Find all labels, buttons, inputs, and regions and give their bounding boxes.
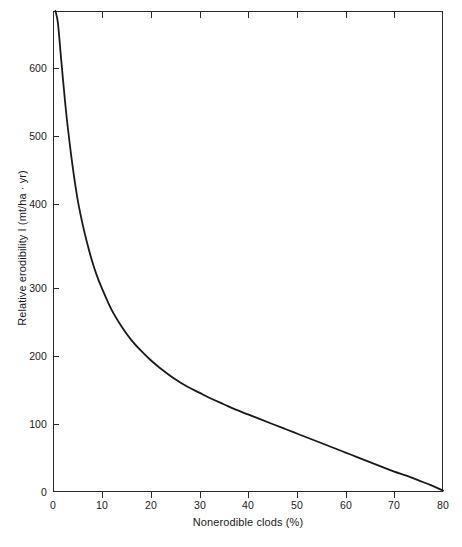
figure-container: 600 500 400 300 200 100 0 0 10 20 30 40 … bbox=[0, 0, 462, 547]
y-tick-label-200: 200 bbox=[29, 351, 47, 362]
x-tick-label-0: 0 bbox=[33, 500, 73, 511]
x-tick-mark-50 bbox=[297, 492, 298, 498]
x-top-tick-mark-10 bbox=[102, 12, 103, 18]
x-tick-mark-40 bbox=[248, 492, 249, 498]
x-tick-label-70: 70 bbox=[374, 500, 414, 511]
x-tick-label-80: 80 bbox=[423, 500, 462, 511]
x-tick-label-60: 60 bbox=[326, 500, 366, 511]
x-tick-label-30: 30 bbox=[180, 500, 220, 511]
y-axis-title: Relative erodibility I (mt/ha · yr) bbox=[16, 118, 28, 378]
x-top-tick-mark-50 bbox=[297, 12, 298, 18]
y-tick-mark-400 bbox=[53, 204, 59, 205]
x-tick-mark-30 bbox=[200, 492, 201, 498]
y-tick-mark-500 bbox=[53, 136, 59, 137]
y-tick-mark-100 bbox=[53, 424, 59, 425]
x-top-tick-mark-70 bbox=[394, 12, 395, 18]
x-tick-label-50: 50 bbox=[277, 500, 317, 511]
x-top-tick-mark-40 bbox=[248, 12, 249, 18]
y-tick-mark-600 bbox=[53, 68, 59, 69]
y-tick-label-500: 500 bbox=[29, 131, 47, 142]
x-tick-label-40: 40 bbox=[228, 500, 268, 511]
y-tick-label-600: 600 bbox=[29, 63, 47, 74]
erodibility-curve bbox=[55, 11, 443, 491]
y-tick-label-100: 100 bbox=[29, 419, 47, 430]
x-tick-mark-10 bbox=[102, 492, 103, 498]
x-tick-label-10: 10 bbox=[82, 500, 122, 511]
x-tick-label-20: 20 bbox=[131, 500, 171, 511]
y-tick-label-300: 300 bbox=[29, 283, 47, 294]
y-tick-label-400: 400 bbox=[29, 199, 47, 210]
x-tick-mark-20 bbox=[151, 492, 152, 498]
x-top-tick-mark-60 bbox=[346, 12, 347, 18]
x-tick-mark-60 bbox=[346, 492, 347, 498]
curve-svg bbox=[53, 11, 443, 492]
y-tick-mark-200 bbox=[53, 356, 59, 357]
x-tick-mark-70 bbox=[394, 492, 395, 498]
y-tick-mark-300 bbox=[53, 288, 59, 289]
x-top-tick-mark-30 bbox=[200, 12, 201, 18]
x-top-tick-mark-20 bbox=[151, 12, 152, 18]
x-axis-title: Nonerodible clods (%) bbox=[53, 516, 443, 528]
y-tick-label-0: 0 bbox=[41, 487, 47, 498]
